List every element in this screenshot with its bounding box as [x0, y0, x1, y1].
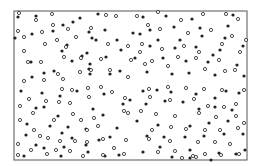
open-point [16, 153, 19, 156]
open-point [61, 77, 64, 80]
filled-point [90, 36, 93, 39]
open-point [74, 35, 77, 38]
open-point [16, 142, 19, 145]
open-point [44, 99, 47, 102]
open-point [54, 148, 57, 151]
filled-point [224, 89, 227, 92]
filled-point [200, 34, 203, 37]
open-point [85, 128, 88, 131]
filled-point [141, 15, 144, 18]
open-point [66, 27, 69, 30]
filled-point [108, 72, 111, 75]
open-point [197, 111, 200, 114]
open-point [38, 134, 41, 137]
open-point [55, 38, 58, 41]
open-point [194, 155, 197, 158]
filled-point [52, 69, 55, 72]
open-point [17, 11, 20, 14]
filled-point [198, 26, 201, 29]
open-point [46, 136, 49, 139]
open-point [236, 126, 239, 129]
open-point [31, 111, 34, 114]
open-point [51, 23, 54, 26]
filled-point [218, 48, 221, 51]
filled-point [66, 125, 69, 128]
filled-point [169, 90, 172, 93]
filled-point [101, 113, 104, 116]
filled-point [231, 13, 234, 16]
filled-point [34, 14, 37, 17]
open-point [39, 60, 42, 63]
open-point [27, 97, 30, 100]
filled-point [42, 146, 45, 149]
open-point [138, 50, 141, 53]
open-point [173, 149, 176, 152]
filled-point [104, 55, 107, 58]
open-point [40, 30, 43, 33]
open-point [224, 12, 227, 15]
open-point [244, 38, 247, 41]
open-point [81, 154, 84, 157]
filled-point [42, 105, 45, 108]
filled-point [184, 59, 187, 62]
filled-point [133, 56, 136, 59]
filled-point [138, 32, 141, 35]
filled-point [59, 154, 62, 157]
open-point [58, 139, 61, 142]
open-point [156, 150, 159, 153]
open-point [220, 88, 223, 91]
open-point [112, 146, 115, 149]
open-point [68, 149, 71, 152]
open-point [135, 14, 138, 17]
open-point [73, 139, 76, 142]
filled-point [163, 99, 166, 102]
filled-point [22, 154, 25, 157]
open-point [22, 49, 25, 52]
filled-point [141, 150, 144, 153]
open-point [101, 137, 104, 140]
filled-point [181, 100, 184, 103]
open-point [122, 152, 125, 155]
filled-point [172, 25, 175, 28]
filled-point [183, 135, 186, 138]
filled-point [194, 45, 197, 48]
filled-point [242, 74, 245, 77]
filled-point [71, 20, 74, 23]
open-point [220, 42, 223, 45]
open-point [202, 87, 205, 90]
open-point [89, 26, 92, 29]
filled-point [164, 14, 167, 17]
filled-point [237, 91, 240, 94]
open-point [180, 156, 183, 159]
filled-point [188, 124, 191, 127]
open-point [156, 10, 159, 13]
filled-point [58, 94, 61, 97]
filled-point [188, 148, 191, 151]
filled-point [131, 31, 134, 34]
open-point [203, 128, 206, 131]
open-point [18, 118, 21, 121]
filled-point [155, 88, 158, 91]
open-point [79, 56, 82, 59]
filled-point [88, 62, 91, 65]
filled-point [213, 73, 216, 76]
open-point [26, 60, 29, 63]
open-point [34, 18, 37, 21]
open-point [108, 68, 111, 71]
filled-point [115, 126, 118, 129]
open-point [206, 104, 209, 107]
filled-point [62, 145, 65, 148]
open-point [168, 98, 171, 101]
filled-point [162, 135, 165, 138]
open-point [96, 124, 99, 127]
filled-point [207, 121, 210, 124]
filled-point [118, 69, 121, 72]
open-point [219, 153, 222, 156]
filled-point [24, 133, 27, 136]
filled-point [243, 148, 246, 151]
filled-point [223, 36, 226, 39]
filled-point [170, 155, 173, 158]
open-point [43, 42, 46, 45]
filled-point [75, 89, 78, 92]
open-point [18, 104, 21, 107]
